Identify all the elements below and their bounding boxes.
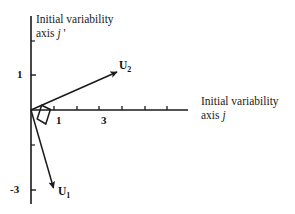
y-axis-title-prefix: axis [36, 27, 57, 39]
y-axis-title: Initial variability axis j ' [36, 12, 114, 41]
x-axis-symbol: j [222, 109, 225, 121]
x-axis-title: Initial variability axis j [201, 94, 279, 123]
vector-u2-arrow [31, 72, 117, 110]
vector-u2-subscript: 2 [127, 65, 131, 74]
y-tick-label-1: 1 [17, 68, 23, 80]
vector-u1-label: U1 [58, 185, 70, 200]
x-axis-title-prefix: axis [201, 109, 222, 121]
vector-diagram-figure: Initial variability axis j ' Initial var… [0, 0, 295, 214]
x-tick-label-1: 1 [56, 114, 62, 126]
x-tick-label-3: 3 [101, 114, 107, 126]
y-axis-prime: ' [61, 27, 66, 39]
y-tick-label-neg3: -3 [10, 183, 19, 195]
vector-u1-subscript: 1 [66, 191, 70, 200]
x-axis-title-line2: axis j [201, 108, 279, 122]
y-axis-title-line2: axis j ' [36, 26, 114, 40]
x-axis-title-line1: Initial variability [201, 94, 279, 108]
right-angle-marker-icon [37, 105, 50, 124]
vector-u2-label: U2 [119, 59, 131, 74]
y-axis-title-line1: Initial variability [36, 12, 114, 26]
